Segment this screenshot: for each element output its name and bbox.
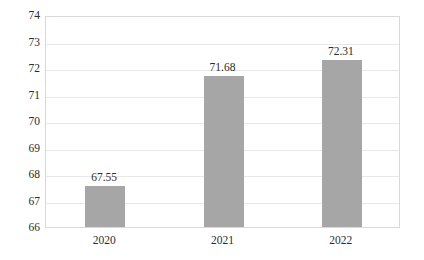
data-label-2022: 72.31 bbox=[306, 46, 376, 58]
x-axis-tick-label-2021: 2021 bbox=[188, 235, 258, 247]
data-label-2020: 67.55 bbox=[69, 172, 139, 184]
y-axis-tick-label: 68 bbox=[0, 169, 40, 181]
bar-chart: 74 73 72 71 70 69 68 67 66 67.55 71.68 7… bbox=[0, 0, 424, 260]
y-axis-tick-label: 67 bbox=[0, 196, 40, 208]
y-axis-tick-label: 70 bbox=[0, 116, 40, 128]
x-axis-tick-label-2022: 2022 bbox=[306, 235, 376, 247]
y-axis-tick-label: 72 bbox=[0, 63, 40, 75]
bar-2021 bbox=[204, 76, 244, 227]
y-axis-tick-label: 71 bbox=[0, 90, 40, 102]
y-axis-tick-label: 73 bbox=[0, 37, 40, 49]
y-axis-tick-label: 74 bbox=[0, 10, 40, 22]
y-axis-tick-label: 69 bbox=[0, 143, 40, 155]
bar-2020 bbox=[85, 186, 125, 227]
bar-2022 bbox=[322, 60, 362, 227]
y-axis-tick-label: 66 bbox=[0, 222, 40, 234]
x-axis-tick-label-2020: 2020 bbox=[69, 235, 139, 247]
data-label-2021: 71.68 bbox=[188, 62, 258, 74]
